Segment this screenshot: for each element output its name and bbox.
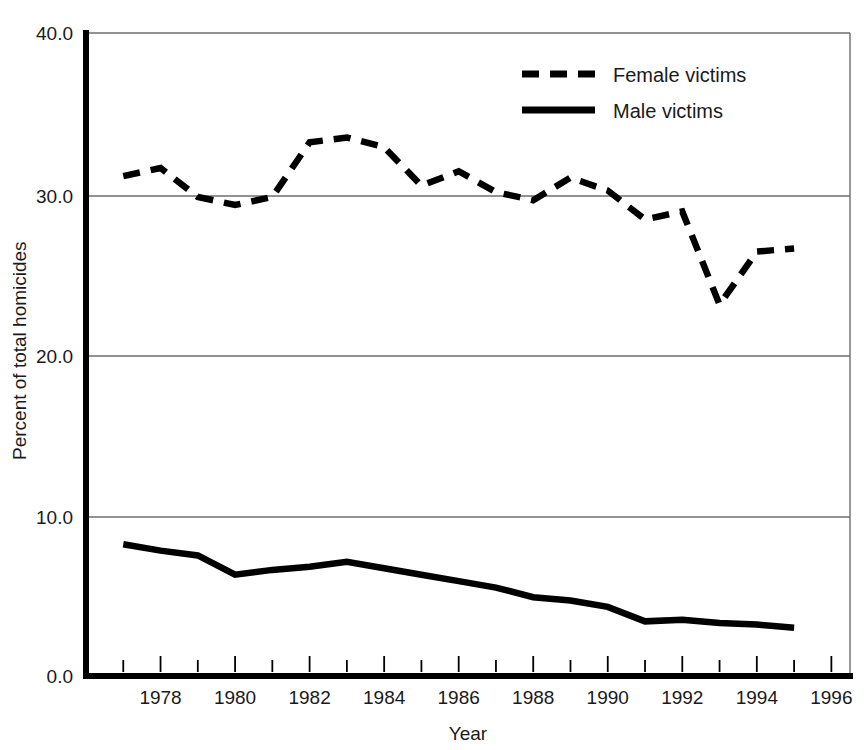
- x-tick-label-1986: 1986: [438, 687, 480, 708]
- x-tick-label-1984: 1984: [363, 687, 406, 708]
- x-tick-label-1980: 1980: [214, 687, 256, 708]
- y-tick-label-20: 20.0: [36, 346, 73, 367]
- x-tick-label-1990: 1990: [587, 687, 629, 708]
- y-tick-label-30: 30.0: [36, 186, 73, 207]
- x-tick-label-1992: 1992: [661, 687, 703, 708]
- x-axis-title: Year: [449, 723, 488, 744]
- x-tick-label-1988: 1988: [512, 687, 554, 708]
- chart-figure: 40.0 30.0 20.0 10.0 0.0 Percent of total…: [0, 0, 868, 750]
- x-tick-label-1978: 1978: [139, 687, 181, 708]
- legend-label-male: Male victims: [613, 100, 723, 122]
- line-chart-svg: 40.0 30.0 20.0 10.0 0.0 Percent of total…: [0, 0, 868, 750]
- chart-background: [0, 0, 868, 750]
- x-tick-label-1982: 1982: [288, 687, 330, 708]
- y-tick-label-10: 10.0: [36, 507, 73, 528]
- x-tick-label-1996: 1996: [810, 687, 852, 708]
- y-tick-label-0: 0.0: [47, 666, 73, 687]
- legend-label-female: Female victims: [613, 64, 746, 86]
- y-axis-title: Percent of total homicides: [9, 241, 30, 460]
- y-tick-label-40: 40.0: [36, 23, 73, 44]
- x-tick-label-1994: 1994: [736, 687, 779, 708]
